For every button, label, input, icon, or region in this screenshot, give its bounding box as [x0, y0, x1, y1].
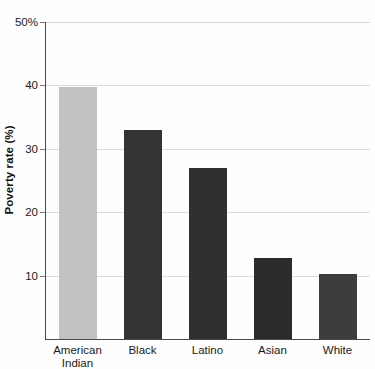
x-tick-label-line: Black [110, 344, 175, 357]
x-tick-label: AmericanIndian [45, 344, 110, 369]
x-tick-label-line: Latino [175, 344, 240, 357]
poverty-rate-bar-chart: Poverty rate (%) 50%40302010 AmericanInd… [0, 0, 375, 369]
y-axis-title-label: Poverty rate (%) [3, 125, 15, 214]
bar [319, 274, 357, 339]
y-axis-title: Poverty rate (%) [0, 0, 18, 339]
x-tick-label-line: American [45, 344, 110, 357]
y-tick-label: 20 [0, 206, 45, 218]
x-tick-label: Latino [175, 344, 240, 357]
bar [59, 87, 97, 339]
x-tick-label-line: Indian [45, 357, 110, 369]
y-tick-label: 40 [0, 79, 45, 91]
x-tick-label-line: White [305, 344, 370, 357]
y-tick-label: 10 [0, 270, 45, 282]
x-axis-labels: AmericanIndianBlackLatinoAsianWhite [45, 344, 370, 369]
y-tick-label: 50% [0, 16, 45, 28]
y-tick-label: 30 [0, 143, 45, 155]
bar [254, 258, 292, 339]
bar [189, 168, 227, 339]
x-tick-label: White [305, 344, 370, 357]
bar [124, 130, 162, 339]
x-tick-label: Black [110, 344, 175, 357]
x-tick-label: Asian [240, 344, 305, 357]
bars-group [45, 22, 370, 339]
x-axis-line [45, 339, 370, 340]
x-tick-label-line: Asian [240, 344, 305, 357]
